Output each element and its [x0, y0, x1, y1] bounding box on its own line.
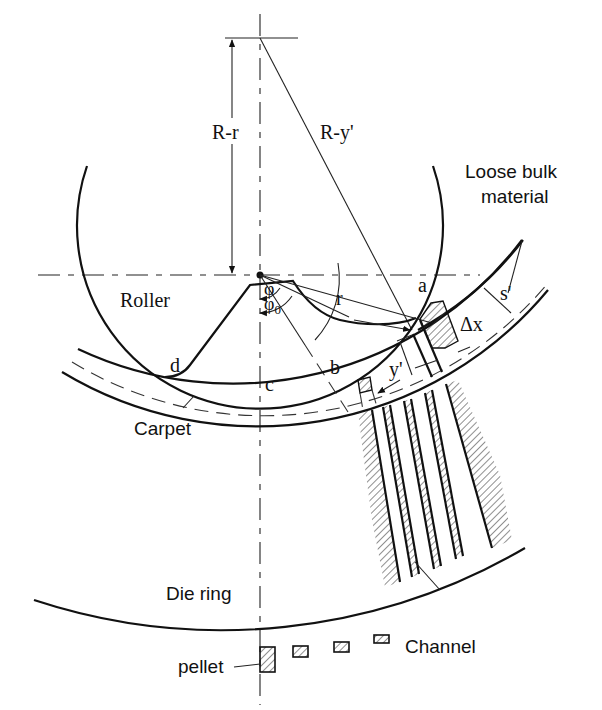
channel-entry-dash-left: [360, 393, 363, 410]
label-d: d: [170, 354, 180, 376]
label-roller: Roller: [120, 289, 170, 311]
label-r: r: [336, 287, 343, 309]
label-c: c: [265, 373, 274, 395]
label-channel: Channel: [405, 636, 476, 657]
pellet: [334, 642, 349, 652]
pellet: [260, 647, 275, 672]
pellet-mill-diagram: R-r R-y' Roller φ φ0 r s' Loose bulk mat…: [0, 0, 602, 710]
label-a: a: [418, 274, 427, 296]
pellet: [293, 646, 308, 657]
phi0-symbol: φ: [264, 294, 274, 314]
delta-x-tick: [458, 347, 470, 352]
label-phi0: φ0: [264, 294, 281, 317]
label-die-ring: Die ring: [166, 583, 231, 604]
label-carpet: Carpet: [134, 418, 192, 439]
die-channels: [358, 380, 512, 587]
label-delta-x: Δx: [460, 313, 483, 335]
label-r-minus-r: R-r: [212, 121, 239, 143]
label-b: b: [330, 356, 340, 378]
phi0-subscript: 0: [274, 302, 281, 317]
label-pellet: pellet: [178, 656, 224, 677]
label-y-prime: y': [389, 358, 403, 381]
carpet-leader: [183, 396, 194, 408]
pellet: [374, 635, 389, 643]
channel-entry-hatch-b: [358, 377, 372, 393]
label-loose-bulk-line1: Loose bulk: [465, 161, 557, 182]
label-loose-bulk-line2: material: [481, 186, 549, 207]
material-profile: [165, 281, 416, 377]
die-ring-outer-surface: [34, 548, 525, 630]
label-r-minus-y-prime: R-y': [320, 121, 354, 144]
pellet-leader: [234, 664, 260, 667]
